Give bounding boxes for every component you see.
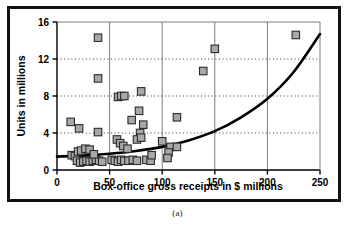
- data-point-marker: [124, 145, 132, 153]
- x-axis-title: Box-office gross receipts in $ millions: [93, 180, 283, 192]
- x-tick-label: 0: [54, 177, 60, 188]
- y-tick-label: 12: [38, 54, 50, 65]
- data-point-marker: [137, 88, 145, 96]
- data-point-markers: [67, 31, 300, 166]
- data-point-marker: [75, 125, 83, 133]
- data-point-marker: [94, 128, 102, 136]
- y-tick-label: 16: [38, 17, 50, 28]
- data-point-marker: [67, 118, 75, 126]
- data-point-marker: [128, 116, 136, 124]
- data-point-marker: [211, 45, 219, 53]
- scatter-plot: 050100150200250 0481216 Box-office gross…: [0, 0, 355, 231]
- data-point-marker: [137, 134, 145, 142]
- y-tick-label: 8: [43, 91, 49, 102]
- trend-curve: [57, 34, 320, 157]
- figure-caption: (a): [0, 208, 355, 218]
- x-tick-label: 250: [312, 177, 329, 188]
- data-point-marker: [173, 114, 181, 122]
- figure-panel: 050100150200250 0481216 Box-office gross…: [0, 0, 355, 231]
- data-point-marker: [98, 158, 106, 166]
- data-point-marker: [90, 151, 98, 159]
- data-point-marker: [135, 107, 143, 115]
- data-point-marker: [158, 138, 166, 146]
- data-point-marker: [140, 121, 148, 129]
- data-point-marker: [173, 143, 181, 151]
- data-point-marker: [199, 67, 207, 75]
- y-tick-label: 0: [43, 165, 49, 176]
- data-point-marker: [164, 154, 172, 162]
- y-tick-label: 4: [43, 128, 49, 139]
- data-point-marker: [121, 92, 129, 100]
- data-point-marker: [133, 157, 141, 165]
- data-point-marker: [94, 75, 102, 83]
- y-axis-tick-labels: 0481216: [38, 17, 50, 176]
- data-point-marker: [292, 31, 300, 39]
- data-point-marker: [148, 151, 156, 159]
- data-point-marker: [94, 34, 102, 42]
- y-axis-title: Units in millions: [15, 55, 27, 136]
